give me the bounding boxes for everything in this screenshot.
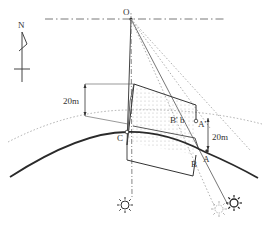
sun-icon <box>226 195 242 211</box>
point-label-c: C <box>117 133 123 143</box>
point-label-a-prime: A' <box>198 119 206 129</box>
diagram-canvas: N O 20m 20m C B' b A' A B <box>0 0 263 225</box>
point-label-a: A <box>203 154 210 164</box>
sun-icon-faded <box>211 201 227 217</box>
shadow-region <box>127 84 196 155</box>
point-label-o: O <box>123 7 130 17</box>
north-label: N <box>18 20 25 30</box>
north-arrow-icon <box>14 32 30 82</box>
sun-icon <box>117 197 133 213</box>
point-label-b-small: b <box>180 115 185 125</box>
height-dimension-left: 20m <box>63 96 79 106</box>
point-label-b-prime: B' <box>170 115 178 125</box>
point-label-b: B <box>191 159 197 169</box>
height-dimension-right: 20m <box>212 132 228 142</box>
